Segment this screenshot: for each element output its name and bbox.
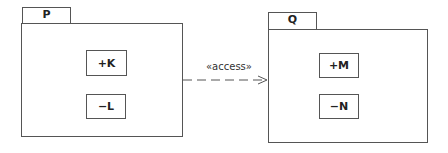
access-stereotype-label: «access» [206, 61, 252, 72]
access-dependency-arrow [0, 0, 448, 153]
